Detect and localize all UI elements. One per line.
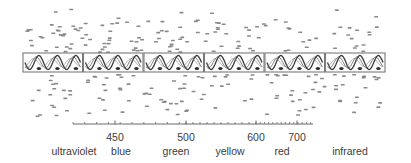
- wave-panel: [23, 53, 83, 72]
- particle-dash: [213, 31, 217, 33]
- particle-dash: [220, 45, 224, 47]
- particle-dash: [180, 37, 184, 39]
- particle-dash: [174, 103, 178, 105]
- particle-dash: [362, 76, 366, 78]
- particle-dash: [332, 33, 336, 35]
- particle-dash: [65, 46, 69, 48]
- particle-dash: [117, 18, 121, 20]
- particle-dash: [52, 106, 56, 108]
- particle-dash: [105, 77, 109, 79]
- particle-dash: [100, 25, 104, 27]
- particle-dash: [103, 110, 107, 112]
- particle-dash: [54, 11, 58, 13]
- particle-dash: [68, 90, 72, 92]
- particle-dash: [338, 27, 342, 29]
- particle-dash: [52, 88, 56, 90]
- tick-label-700: 700: [288, 131, 306, 143]
- particle-dash: [367, 32, 371, 34]
- particle-dash: [108, 30, 112, 32]
- particle-dash: [346, 34, 350, 36]
- particle-dash: [317, 91, 321, 93]
- particle-dash: [305, 46, 309, 48]
- particle-dash: [182, 87, 186, 89]
- particle-dash: [204, 41, 208, 43]
- particle-dash: [108, 37, 112, 39]
- particle-dash: [61, 35, 65, 37]
- particle-dash: [247, 35, 251, 37]
- particle-dash: [48, 94, 52, 96]
- particle-dash: [132, 75, 136, 77]
- particle-dash: [102, 84, 106, 86]
- particle-dash: [249, 98, 253, 100]
- particle-dash: [156, 32, 160, 34]
- particle-dash: [320, 78, 324, 80]
- particle-dash: [283, 50, 287, 52]
- particle-dash: [348, 27, 352, 29]
- particle-dash: [202, 94, 206, 96]
- particle-dash: [40, 37, 44, 39]
- particle-dash: [323, 86, 327, 88]
- particle-dash: [244, 27, 248, 29]
- particle-dash: [101, 99, 105, 101]
- particle-dash: [213, 107, 217, 109]
- particle-dash: [335, 9, 339, 11]
- particle-dash: [76, 30, 80, 32]
- particle-dash: [71, 25, 75, 27]
- particle-dash: [307, 76, 311, 78]
- particle-dash: [201, 77, 205, 79]
- particle-dash: [103, 46, 107, 48]
- particle-dash: [127, 100, 131, 102]
- particle-dash: [68, 94, 72, 96]
- particle-dash: [237, 45, 241, 47]
- particle-dash: [25, 30, 29, 32]
- particle-dash: [374, 16, 378, 18]
- particle-dash: [134, 47, 138, 49]
- particle-dash: [224, 76, 228, 78]
- particle-dash: [301, 41, 305, 43]
- particle-dash: [169, 103, 173, 105]
- tick-label-450: 450: [106, 131, 124, 143]
- particle-dash: [136, 50, 140, 52]
- particle-dash: [210, 85, 214, 87]
- particle-dash: [176, 114, 180, 116]
- particle-dash: [29, 40, 33, 42]
- particle-dash: [377, 77, 381, 79]
- particle-dash: [265, 74, 269, 76]
- particle-dash: [313, 82, 317, 84]
- particle-dash: [249, 78, 253, 80]
- particle-dash: [374, 79, 378, 81]
- particle-dash: [107, 43, 111, 45]
- particle-dash: [226, 84, 230, 86]
- particle-dash: [70, 43, 74, 45]
- particle-dash: [205, 33, 209, 35]
- particle-dash: [333, 47, 337, 49]
- particle-dash: [49, 80, 53, 82]
- particle-dash: [120, 77, 124, 79]
- particle-dash: [257, 37, 261, 39]
- band-label-red: red: [274, 145, 289, 157]
- particle-dash: [307, 39, 311, 41]
- particle-dash: [178, 38, 182, 40]
- particle-dash: [194, 21, 198, 23]
- wavelength-axis: [73, 121, 313, 125]
- particle-dash: [145, 106, 149, 108]
- wave-panels: [23, 53, 385, 72]
- particle-dash: [334, 89, 338, 91]
- particle-dash: [29, 29, 33, 31]
- particle-dash: [314, 74, 318, 76]
- particle-dash: [159, 99, 163, 101]
- particle-dash: [50, 75, 54, 77]
- particle-dash: [150, 87, 154, 89]
- tick-label-500: 500: [177, 131, 195, 143]
- particle-dash: [350, 38, 354, 40]
- particle-dash: [54, 83, 58, 85]
- particle-dash: [175, 48, 179, 50]
- particle-dash: [171, 40, 175, 42]
- tick-label-600: 600: [247, 131, 265, 143]
- particle-dash: [165, 109, 169, 111]
- particle-dash: [169, 45, 173, 47]
- particle-dash: [154, 41, 158, 43]
- particle-dash: [311, 89, 315, 91]
- particle-dash: [84, 34, 88, 36]
- particle-dash: [212, 51, 216, 53]
